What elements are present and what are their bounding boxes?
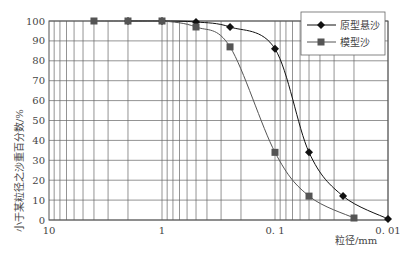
x-tick-label: 0. 1 [265,225,284,236]
y-axis-ticks: 0102030405060708090100 [26,16,45,226]
y-tick-label: 0 [39,215,45,226]
legend-label: 模型沙 [340,36,370,48]
y-tick-label: 60 [32,95,45,106]
square-marker-icon [124,18,131,25]
y-tick-label: 70 [32,75,45,86]
square-marker-icon [227,43,234,50]
x-tick-label: 1 [159,225,165,236]
y-tick-label: 100 [26,16,45,27]
square-marker-icon [318,39,325,46]
y-tick-label: 20 [32,175,45,186]
square-marker-icon [350,215,357,222]
square-marker-icon [193,23,200,30]
y-axis-label: 小于某粒径之沙重百分数/% [13,109,25,232]
square-marker-icon [90,18,97,25]
diamond-marker-icon [305,148,313,156]
diamond-marker-icon [384,215,392,223]
legend: 原型悬沙模型沙 [301,12,385,55]
y-tick-label: 80 [32,55,45,66]
y-tick-label: 50 [32,115,45,126]
x-tick-label: 0. 01 [375,225,400,236]
square-marker-icon [272,149,279,156]
grain-size-distribution-chart: 0102030405060708090100 1010. 10. 01 粒径/m… [0,0,410,259]
square-marker-icon [306,193,313,200]
x-axis-label: 粒径/mm [335,234,378,246]
y-tick-label: 90 [32,35,45,46]
x-tick-label: 10 [43,225,56,236]
y-tick-label: 30 [32,155,45,166]
square-marker-icon [159,18,166,25]
y-tick-label: 40 [32,135,45,146]
diamond-marker-icon [271,45,279,53]
diamond-marker-icon [226,23,234,31]
y-tick-label: 10 [32,195,45,206]
legend-label: 原型悬沙 [340,19,380,31]
legend-box [301,12,385,55]
